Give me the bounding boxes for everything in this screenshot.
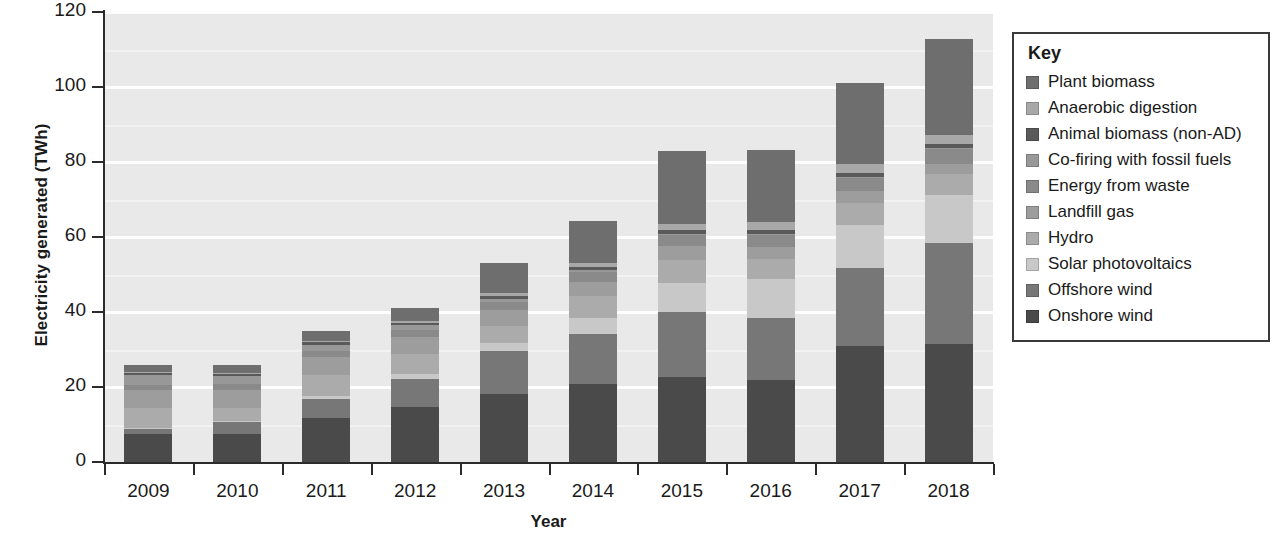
legend-item[interactable]: Solar photovoltaics bbox=[1026, 251, 1258, 277]
x-tick-label-2012: 2012 bbox=[370, 480, 460, 502]
bar-segment-onshore-wind bbox=[213, 434, 261, 463]
bar-segment-offshore-wind bbox=[925, 243, 973, 343]
bar-segment-landfill-gas bbox=[836, 191, 884, 202]
bar-segment-plant-biomass bbox=[302, 331, 350, 342]
bar-segment-anaerobic-digestion bbox=[747, 222, 795, 230]
legend-item[interactable]: Plant biomass bbox=[1026, 69, 1258, 95]
bar-segment-animal-biomass-non-ad bbox=[925, 144, 973, 148]
bar-segment-energy-from-waste bbox=[124, 385, 172, 390]
y-tick bbox=[92, 161, 104, 163]
bar-segment-co-firing-with-fossil-fuels bbox=[213, 376, 261, 384]
bar-segment-energy-from-waste bbox=[302, 351, 350, 357]
bar-segment-offshore-wind bbox=[391, 379, 439, 407]
bar-segment-hydro bbox=[213, 408, 261, 422]
bar-segment-animal-biomass-non-ad bbox=[124, 373, 172, 375]
bar-segment-anaerobic-digestion bbox=[569, 263, 617, 268]
bar-segment-plant-biomass bbox=[213, 365, 261, 374]
legend-item[interactable]: Landfill gas bbox=[1026, 199, 1258, 225]
legend-item[interactable]: Energy from waste bbox=[1026, 173, 1258, 199]
bar-segment-energy-from-waste bbox=[747, 235, 795, 247]
legend-item-label: Energy from waste bbox=[1048, 176, 1190, 196]
bar-segment-hydro bbox=[124, 408, 172, 427]
legend-item-label: Plant biomass bbox=[1048, 72, 1155, 92]
x-tick-label-2011: 2011 bbox=[281, 480, 371, 502]
bar-2017 bbox=[836, 83, 884, 463]
x-tick bbox=[993, 464, 995, 475]
bar-segment-hydro bbox=[836, 203, 884, 225]
bar-segment-hydro bbox=[480, 326, 528, 343]
bar-segment-energy-from-waste bbox=[569, 272, 617, 281]
legend-title: Key bbox=[1028, 43, 1258, 64]
bar-segment-onshore-wind bbox=[925, 344, 973, 463]
x-tick bbox=[104, 464, 106, 475]
gridline bbox=[104, 11, 993, 14]
bar-segment-anaerobic-digestion bbox=[480, 293, 528, 296]
bar-segment-animal-biomass-non-ad bbox=[213, 374, 261, 376]
legend-item[interactable]: Animal biomass (non-AD) bbox=[1026, 121, 1258, 147]
bar-segment-solar-photovoltaics bbox=[747, 279, 795, 318]
legend-swatch-icon bbox=[1026, 102, 1039, 115]
bar-segment-plant-biomass bbox=[658, 151, 706, 224]
bar-segment-co-firing-with-fossil-fuels bbox=[391, 325, 439, 330]
x-tick bbox=[460, 464, 462, 475]
bar-segment-landfill-gas bbox=[213, 390, 261, 408]
x-tick bbox=[815, 464, 817, 475]
legend-swatch-icon bbox=[1026, 206, 1039, 219]
bar-segment-solar-photovoltaics bbox=[569, 318, 617, 333]
bar-2018 bbox=[925, 39, 973, 462]
bar-segment-co-firing-with-fossil-fuels bbox=[480, 299, 528, 302]
bar-segment-animal-biomass-non-ad bbox=[747, 230, 795, 233]
legend-swatch-icon bbox=[1026, 128, 1039, 141]
x-tick bbox=[904, 464, 906, 475]
x-tick bbox=[282, 464, 284, 475]
y-tick-label: 100 bbox=[8, 74, 86, 96]
legend-swatch-icon bbox=[1026, 154, 1039, 167]
bar-segment-solar-photovoltaics bbox=[302, 396, 350, 399]
x-tick-label-2010: 2010 bbox=[192, 480, 282, 502]
bar-segment-offshore-wind bbox=[124, 428, 172, 434]
y-tick bbox=[92, 236, 104, 238]
bar-segment-animal-biomass-non-ad bbox=[302, 342, 350, 344]
bar-segment-animal-biomass-non-ad bbox=[569, 267, 617, 270]
bar-segment-landfill-gas bbox=[124, 390, 172, 408]
bar-segment-plant-biomass bbox=[391, 308, 439, 321]
bar-segment-co-firing-with-fossil-fuels bbox=[747, 234, 795, 235]
x-tick-label-2016: 2016 bbox=[726, 480, 816, 502]
legend-item-label: Anaerobic digestion bbox=[1048, 98, 1197, 118]
bar-segment-energy-from-waste bbox=[925, 149, 973, 164]
bar-segment-co-firing-with-fossil-fuels bbox=[569, 270, 617, 272]
bar-segment-anaerobic-digestion bbox=[302, 341, 350, 342]
bar-segment-plant-biomass bbox=[480, 263, 528, 293]
bar-segment-plant-biomass bbox=[925, 39, 973, 135]
bar-2016 bbox=[747, 150, 795, 462]
bar-segment-landfill-gas bbox=[302, 357, 350, 375]
x-tick-label-2014: 2014 bbox=[548, 480, 638, 502]
bar-segment-offshore-wind bbox=[302, 399, 350, 418]
minor-gridline bbox=[104, 50, 993, 52]
bar-segment-hydro bbox=[925, 174, 973, 195]
y-tick bbox=[92, 86, 104, 88]
bar-segment-landfill-gas bbox=[658, 246, 706, 260]
legend-item[interactable]: Hydro bbox=[1026, 225, 1258, 251]
legend-swatch-icon bbox=[1026, 284, 1039, 297]
legend-item-label: Offshore wind bbox=[1048, 280, 1153, 300]
legend-item[interactable]: Anaerobic digestion bbox=[1026, 95, 1258, 121]
bar-segment-landfill-gas bbox=[480, 310, 528, 326]
x-tick bbox=[193, 464, 195, 475]
bar-segment-anaerobic-digestion bbox=[213, 373, 261, 374]
bar-2009 bbox=[124, 365, 172, 463]
x-tick bbox=[726, 464, 728, 475]
legend-item[interactable]: Onshore wind bbox=[1026, 303, 1258, 329]
legend-item[interactable]: Offshore wind bbox=[1026, 277, 1258, 303]
bar-segment-landfill-gas bbox=[747, 247, 795, 259]
bar-segment-offshore-wind bbox=[747, 318, 795, 380]
legend-item-label: Landfill gas bbox=[1048, 202, 1134, 222]
x-tick-label-2015: 2015 bbox=[637, 480, 727, 502]
bar-segment-anaerobic-digestion bbox=[925, 135, 973, 145]
legend-item-label: Onshore wind bbox=[1048, 306, 1153, 326]
bar-segment-plant-biomass bbox=[747, 150, 795, 222]
legend-item[interactable]: Co-firing with fossil fuels bbox=[1026, 147, 1258, 173]
bar-2010 bbox=[213, 365, 261, 463]
bar-segment-hydro bbox=[302, 375, 350, 396]
bar-segment-animal-biomass-non-ad bbox=[658, 230, 706, 233]
